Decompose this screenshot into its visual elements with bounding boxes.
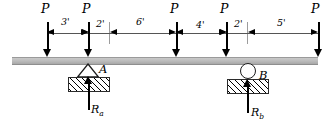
reaction-a-label: Ra bbox=[91, 104, 104, 118]
load-label-2: P bbox=[82, 3, 90, 16]
support-b-label: B bbox=[259, 70, 267, 82]
dimension-2ft-left-label: 2' bbox=[96, 19, 105, 29]
beam bbox=[12, 57, 318, 65]
dimension-5ft-label: 5' bbox=[277, 18, 286, 28]
dimension-4ft-label: 4' bbox=[196, 20, 205, 30]
beam-diagram-canvas: 3' 2' 6' 4' 2' 5' P P bbox=[0, 0, 332, 126]
dimension-6ft-label: 6' bbox=[136, 17, 145, 27]
support-a-label: A bbox=[99, 64, 107, 76]
load-label-4: P bbox=[220, 3, 228, 16]
load-label-1: P bbox=[41, 3, 49, 16]
roller-circle-icon bbox=[240, 63, 256, 79]
load-label-3: P bbox=[170, 3, 178, 16]
dimension-3ft-label: 3' bbox=[61, 17, 70, 27]
dimension-2ft-right-label: 2' bbox=[234, 19, 243, 29]
reaction-b-label: Rb bbox=[251, 107, 264, 121]
load-label-5: P bbox=[311, 3, 319, 16]
